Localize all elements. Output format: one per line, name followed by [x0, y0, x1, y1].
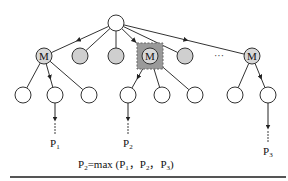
ellipsis-dot: [127, 129, 129, 131]
ellipsis-dot: [54, 129, 56, 131]
leaf-node: [187, 87, 203, 103]
ellipsis-dot: [54, 132, 56, 134]
arrow-icon: [260, 76, 261, 78]
ellipsis-dot: [54, 123, 56, 125]
ellipsis-text: ···: [214, 50, 224, 61]
m-node-label: M: [39, 50, 49, 62]
ellipsis-dot: [127, 132, 129, 134]
gray-node: [177, 48, 193, 64]
horizontal-rule: [10, 176, 286, 178]
rollout-paths: [54, 103, 269, 142]
leaf-node: [120, 87, 136, 103]
arrow-icon: [50, 76, 51, 78]
leaf-node: [260, 87, 276, 103]
ellipsis-dot: [127, 123, 129, 125]
arrow-icon: [133, 40, 134, 41]
gray-node: [108, 48, 124, 64]
ellipsis-dot: [267, 137, 269, 139]
ellipsis-dot: [54, 126, 56, 128]
ellipsis: ···: [214, 50, 224, 61]
tree-edge: [50, 61, 83, 90]
arrow-icon: [78, 40, 80, 41]
ellipsis-dot: [267, 131, 269, 133]
formula-eq: =max (: [88, 158, 120, 170]
ellipsis-dot: [127, 126, 129, 128]
leaf-node: [154, 87, 170, 103]
tree-edge: [27, 63, 40, 88]
m-node-label: M: [145, 50, 155, 62]
path-label-p1: P1: [50, 138, 60, 151]
tree-diagram: MMM ···: [0, 0, 288, 181]
tree-nodes: MMM: [15, 15, 276, 103]
arrow-icon: [138, 76, 139, 78]
gray-node: [72, 48, 88, 64]
path-label-p3: P3: [263, 146, 273, 159]
m-node-label: M: [247, 50, 257, 62]
ellipsis-dot: [267, 140, 269, 142]
max-formula: P2=max (P1，P2，P3): [78, 159, 174, 172]
tree-edge: [238, 63, 249, 87]
ellipsis-dot: [267, 134, 269, 136]
root-node: [108, 15, 124, 31]
leaf-node: [47, 87, 63, 103]
leaf-node: [15, 87, 31, 103]
leaf-node: [81, 87, 97, 103]
path-label-p2: P2: [123, 138, 133, 151]
leaf-node: [227, 87, 243, 103]
